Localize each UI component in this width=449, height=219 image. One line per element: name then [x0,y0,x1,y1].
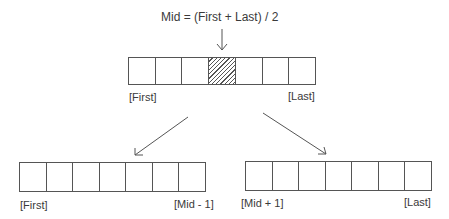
array-cell [182,58,209,84]
binary-search-diagram: Mid = (First + Last) / 2 [0,0,449,219]
array-cell [126,163,153,191]
array-cell [153,163,180,191]
array-cell [352,162,379,190]
top-first-label: [First] [129,91,157,103]
array-cell [47,163,74,191]
top-last-label: [Last] [288,90,315,102]
top-array [128,57,316,85]
array-cell [236,58,263,84]
down-arrow-icon [217,29,227,50]
left-subarray [19,162,206,192]
array-cell [156,58,183,84]
left-first-label: [First] [20,199,48,211]
array-cell [273,162,300,190]
right-last-label: [Last] [404,196,431,208]
array-cell [73,163,100,191]
array-cell [246,162,273,190]
right-mid-plus-one-label: [Mid + 1] [241,197,284,209]
array-cell [405,162,431,190]
mid-cell-hatched [209,58,236,84]
array-cell [129,58,156,84]
arrow-down-left-icon [135,117,188,155]
left-mid-minus-one-label: [Mid - 1] [174,198,214,210]
array-cell [100,163,127,191]
array-cell [289,58,315,84]
array-cell [326,162,353,190]
arrow-down-right-icon [263,113,326,154]
array-cell [179,163,205,191]
right-subarray [245,161,432,191]
array-cell [299,162,326,190]
array-cell [379,162,406,190]
array-cell [20,163,47,191]
array-cell [263,58,290,84]
